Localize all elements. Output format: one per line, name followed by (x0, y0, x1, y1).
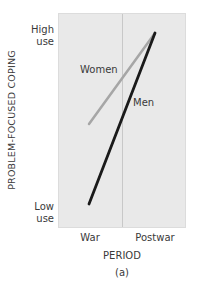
women-label: Women (80, 64, 118, 75)
y-tick-low: Low use (34, 201, 54, 225)
y-axis-label: PROBLEM-FOCUSED COPING (6, 50, 17, 190)
x-tick-war: War (80, 232, 100, 243)
men-line (89, 33, 155, 204)
y-tick-high-line1: High (31, 24, 54, 36)
y-tick-high: High use (31, 24, 54, 48)
figure-caption: (a) (115, 267, 129, 278)
y-tick-low-line1: Low (34, 201, 54, 213)
x-axis-label: PERIOD (103, 250, 141, 261)
y-tick-low-line2: use (34, 213, 54, 225)
women-line (89, 33, 155, 124)
men-label: Men (133, 97, 154, 108)
x-tick-postwar: Postwar (135, 232, 174, 243)
y-tick-high-line2: use (31, 36, 54, 48)
